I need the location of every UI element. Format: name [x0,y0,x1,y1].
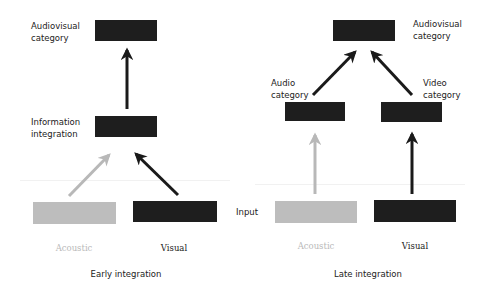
integration-diagram: Audiovisual category Information integra… [0,0,485,292]
arrows-layer [0,0,485,292]
early-visual-arrow-icon [136,154,178,195]
late-audio-to-category-arrow-icon [313,52,355,95]
early-acoustic-arrow-icon [69,155,109,196]
late-video-to-category-arrow-icon [372,52,412,95]
